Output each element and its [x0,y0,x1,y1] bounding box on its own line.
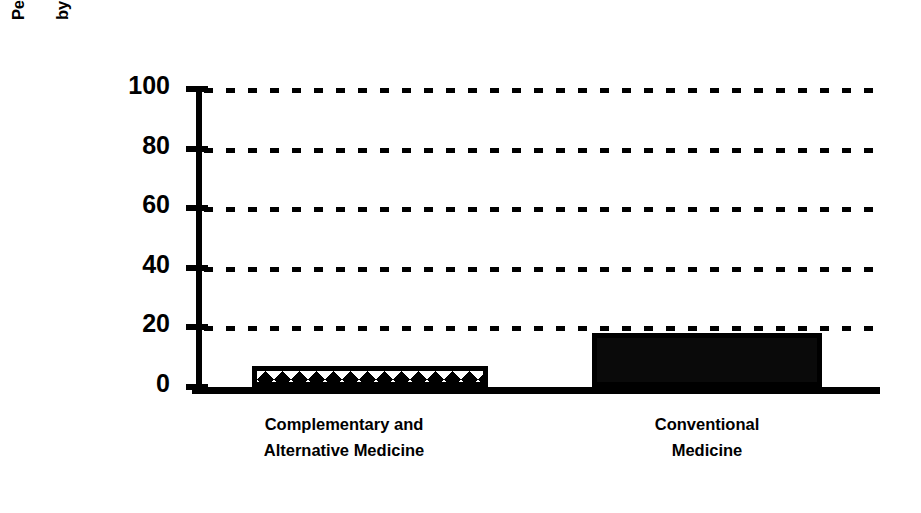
x-category-label-0-line-1: Complementary and [200,412,488,438]
bar-complementary-alternative-medicine [252,366,488,387]
y-tick-20: 20 [186,324,208,330]
plot-area: 0 20 40 60 80 100 [200,88,880,387]
y-tick-label-40: 40 [142,252,170,277]
y-tick-label-0: 0 [156,371,170,396]
y-tick-label-20: 20 [142,311,170,336]
y-tick-0: 0 [186,384,208,390]
bar-conventional-medicine [592,333,822,387]
y-tick-label-100: 100 [128,73,170,98]
gridline-40 [204,267,880,272]
x-category-label-0-line-2: Alternative Medicine [200,438,488,464]
bar-chart-figure: Percentage of Interventions Verified by … [0,0,921,513]
gridline-60 [204,207,880,212]
y-tick-label-80: 80 [142,133,170,158]
y-axis-label-line-2: by Scientific Research [52,0,72,20]
y-axis-label-line-2-text: by Scientific Research [53,0,72,20]
x-category-label-0: Complementary and Alternative Medicine [200,412,488,463]
y-tick-100: 100 [186,86,208,92]
y-axis-line [196,86,202,389]
y-tick-60: 60 [186,205,208,211]
gridline-100 [204,88,880,93]
y-tick-label-60: 60 [142,192,170,217]
y-axis-label-line-1-text: Percentage of Interventions Verified [9,0,28,20]
gridline-20 [204,326,880,331]
x-category-label-1-line-1: Conventional [562,412,852,438]
y-tick-80: 80 [186,146,208,152]
y-tick-40: 40 [186,265,208,271]
x-axis-baseline [192,387,880,394]
x-category-label-1-line-2: Medicine [562,438,852,464]
x-category-label-1: Conventional Medicine [562,412,852,463]
y-axis-label-line-1: Percentage of Interventions Verified [8,0,28,20]
gridline-80 [204,148,880,153]
